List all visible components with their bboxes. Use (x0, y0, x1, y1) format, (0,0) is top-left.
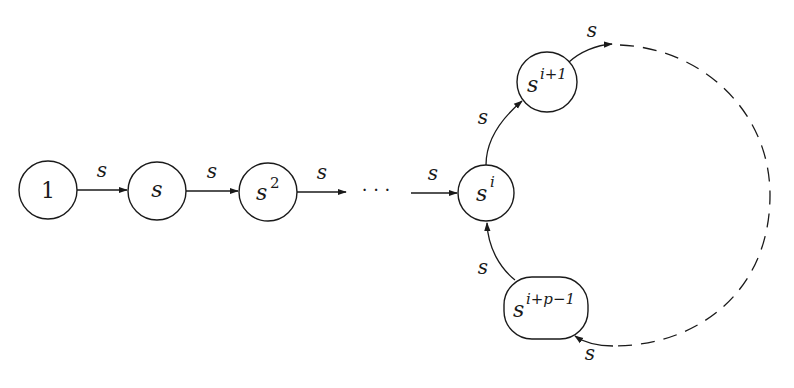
node-s2: s 2 (239, 163, 297, 221)
node-si1-sup: i+1 (540, 65, 567, 83)
node-s: s (128, 162, 186, 220)
edge-sip-to-si (487, 223, 515, 280)
node-sip-sup: i+p−1 (526, 290, 575, 308)
node-s-label: s (151, 177, 162, 202)
edge-label: s (428, 161, 438, 185)
edge-label: s (97, 158, 107, 182)
edge-si-to-si1 (486, 101, 522, 165)
node-si1: s i+1 (517, 52, 577, 112)
edge-label: s (478, 105, 488, 129)
edge-label: s (478, 255, 488, 279)
node-s2-sup: 2 (270, 174, 280, 192)
node-si: s i (458, 165, 514, 221)
diagram-canvas: 1 s s 2 · · · s i s i+1 s i+p−1 s s s s … (0, 0, 794, 388)
ellipsis: · · · (362, 179, 391, 200)
node-s2-base: s (256, 180, 267, 205)
node-si-base: s (476, 181, 487, 206)
node-1-label: 1 (41, 178, 55, 203)
dashed-cycle-arc (615, 45, 770, 346)
edge-label: s (207, 159, 217, 183)
node-sip-base: s (513, 297, 524, 322)
edge-label: s (587, 18, 597, 42)
node-si-sup: i (490, 173, 495, 191)
node-sip: s i+p−1 (504, 277, 588, 339)
node-si1-base: s (527, 72, 538, 97)
node-1: 1 (19, 161, 77, 219)
edge-label: s (585, 341, 595, 365)
edge-si1-to-arc (569, 44, 612, 62)
edge-label: s (317, 160, 327, 184)
